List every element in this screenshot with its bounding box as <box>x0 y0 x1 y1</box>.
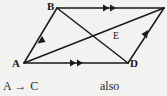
vertex-label-d: D <box>130 58 138 69</box>
vertex-label-b: B <box>47 1 54 12</box>
vertex-label-e: E <box>113 31 119 41</box>
caption-mapping-a-to-c: A → C <box>3 80 39 92</box>
vertex-label-a: A <box>12 58 20 69</box>
caption-also: also <box>100 80 119 92</box>
diagonal-AC-line <box>24 8 164 63</box>
side-AB-line <box>24 8 57 63</box>
figure-container: A B D E A → C also <box>0 0 167 96</box>
